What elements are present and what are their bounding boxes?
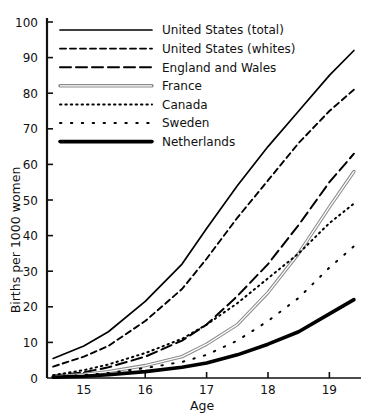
y-tick-label: 60 bbox=[23, 158, 38, 172]
legend-label-1: United States (whites) bbox=[162, 42, 296, 56]
y-tick-label: 80 bbox=[23, 87, 38, 101]
x-tick-label: 19 bbox=[322, 383, 337, 397]
legend-label-5: Sweden bbox=[162, 116, 209, 130]
y-tick-label: 0 bbox=[30, 372, 38, 386]
y-tick-label: 30 bbox=[23, 265, 38, 279]
series-line-5 bbox=[53, 246, 354, 377]
legend-label-0: United States (total) bbox=[162, 23, 284, 37]
series-line-3-inner bbox=[53, 172, 354, 377]
x-tick-label: 15 bbox=[76, 383, 91, 397]
y-tick-label: 100 bbox=[15, 16, 38, 30]
y-tick-label: 40 bbox=[23, 229, 38, 243]
legend-label-4: Canada bbox=[162, 98, 208, 112]
y-tick-label: 10 bbox=[23, 336, 38, 350]
series-line-4 bbox=[53, 204, 354, 376]
x-tick-label: 16 bbox=[138, 383, 153, 397]
x-axis-title: Age bbox=[190, 398, 214, 413]
series-line-2 bbox=[53, 154, 354, 376]
legend-label-2: England and Wales bbox=[162, 61, 276, 75]
line-chart: 01020304050607080901001516171819AgeBirth… bbox=[0, 0, 365, 417]
x-tick-label: 17 bbox=[199, 383, 214, 397]
y-axis-title: Births per 1000 women bbox=[8, 167, 23, 314]
y-tick-label: 90 bbox=[23, 51, 38, 65]
legend-label-3: France bbox=[162, 79, 202, 93]
x-tick-label: 18 bbox=[260, 383, 275, 397]
legend-label-6: Netherlands bbox=[162, 135, 235, 149]
series-line-0 bbox=[53, 50, 354, 358]
y-tick-label: 50 bbox=[23, 194, 38, 208]
y-tick-label: 20 bbox=[23, 300, 38, 314]
chart-canvas: 01020304050607080901001516171819AgeBirth… bbox=[0, 0, 365, 417]
y-tick-label: 70 bbox=[23, 122, 38, 136]
